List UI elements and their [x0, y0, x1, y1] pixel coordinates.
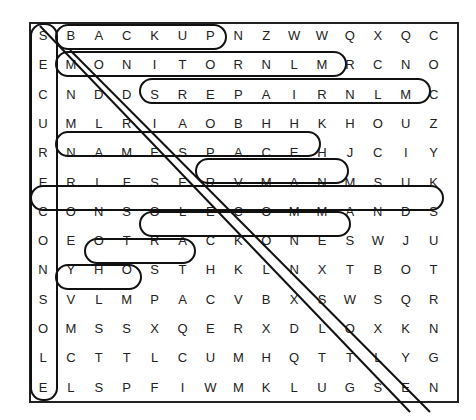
- word-circles: [0, 0, 476, 420]
